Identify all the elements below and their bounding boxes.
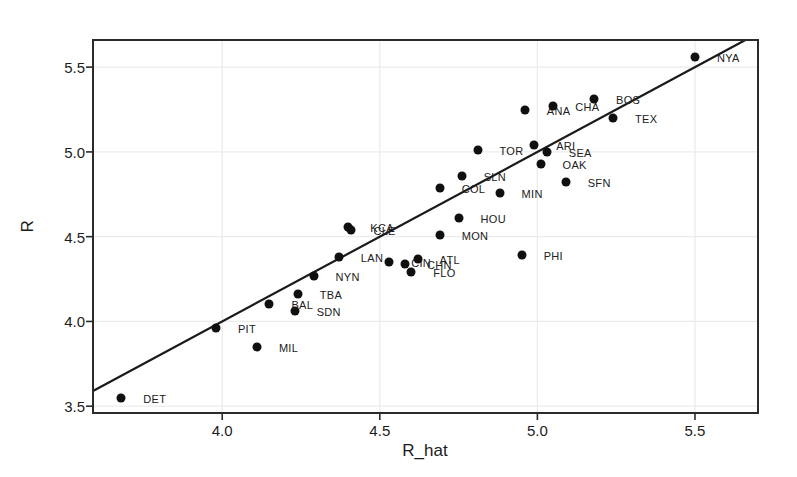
data-point-mon <box>435 230 444 239</box>
data-point-cha <box>549 102 558 111</box>
point-label-ari: ARI <box>556 140 575 152</box>
point-label-pit: PIT <box>238 323 256 335</box>
point-label-phi: PHI <box>544 250 563 262</box>
plot-area <box>0 0 797 477</box>
data-point-sea <box>542 147 551 156</box>
data-point-oak <box>536 159 545 168</box>
point-label-kca: KCA <box>370 222 394 234</box>
data-point-mil <box>252 342 261 351</box>
y-tick-label: 3.5 <box>41 398 85 415</box>
x-tick-label: 5.5 <box>685 422 706 439</box>
point-label-hou: HOU <box>481 213 506 225</box>
data-point-col <box>435 183 444 192</box>
data-point-atl <box>413 254 422 263</box>
point-label-sfn: SFN <box>588 177 611 189</box>
data-point-cin <box>385 258 394 267</box>
point-label-det: DET <box>143 393 166 405</box>
data-point-nyn <box>309 271 318 280</box>
identity-line <box>93 40 745 391</box>
y-tick-label: 4.0 <box>41 313 85 330</box>
x-tick-label: 4.0 <box>212 422 233 439</box>
data-point-chn <box>401 259 410 268</box>
x-axis-title: R_hat <box>402 441 447 461</box>
data-point-tba <box>293 290 302 299</box>
point-label-tor: TOR <box>500 145 524 157</box>
data-point-bal <box>265 300 274 309</box>
plot-frame <box>93 40 758 413</box>
y-axis-title: R <box>18 220 38 233</box>
point-label-nyn: NYN <box>336 271 360 283</box>
data-point-nya <box>690 52 699 61</box>
y-tick-label: 5.5 <box>41 59 85 76</box>
data-point-min <box>495 188 504 197</box>
data-point-sfn <box>561 178 570 187</box>
data-point-pit <box>211 324 220 333</box>
scatter-plot-figure: R R_hat 3.54.04.55.05.54.04.55.05.5DETMI… <box>0 0 797 477</box>
point-label-col: COL <box>462 183 486 195</box>
point-label-atl: ATL <box>440 254 460 266</box>
data-point-tor <box>473 146 482 155</box>
data-point-sln <box>457 171 466 180</box>
point-label-nya: NYA <box>717 52 740 64</box>
point-label-lan: LAN <box>361 252 383 264</box>
point-label-bos: BOS <box>616 94 640 106</box>
point-label-mon: MON <box>462 230 489 242</box>
point-label-min: MIN <box>522 188 543 200</box>
y-tick-label: 4.5 <box>41 228 85 245</box>
data-point-lan <box>334 253 343 262</box>
data-point-det <box>117 393 126 402</box>
data-point-phi <box>517 251 526 260</box>
data-point-tex <box>609 113 618 122</box>
data-point-kca <box>344 222 353 231</box>
y-tick-label: 5.0 <box>41 143 85 160</box>
x-tick-label: 4.5 <box>369 422 390 439</box>
point-label-sdn: SDN <box>317 306 341 318</box>
point-label-sln: SLN <box>484 171 506 183</box>
data-point-ana <box>520 105 529 114</box>
x-tick-label: 5.0 <box>527 422 548 439</box>
point-label-oak: OAK <box>563 159 587 171</box>
point-label-bal: BAL <box>291 299 313 311</box>
point-label-mil: MIL <box>279 342 298 354</box>
data-point-ari <box>530 141 539 150</box>
data-point-hou <box>454 214 463 223</box>
point-label-tba: TBA <box>320 289 342 301</box>
data-point-flo <box>407 268 416 277</box>
point-label-tex: TEX <box>635 113 657 125</box>
data-point-bos <box>590 95 599 104</box>
